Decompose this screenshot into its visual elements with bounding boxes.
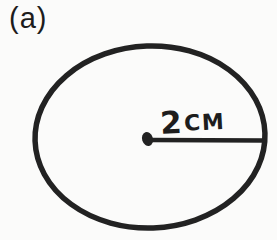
radius-value: 2 xyxy=(159,104,182,141)
radius-label: 2 cm xyxy=(159,102,226,141)
radius-unit: cm xyxy=(183,109,225,136)
circle-drawing: 2 cm xyxy=(0,0,277,240)
center-dot xyxy=(140,131,155,148)
figure-circle-diagram: (a) 2 cm xyxy=(0,0,277,240)
